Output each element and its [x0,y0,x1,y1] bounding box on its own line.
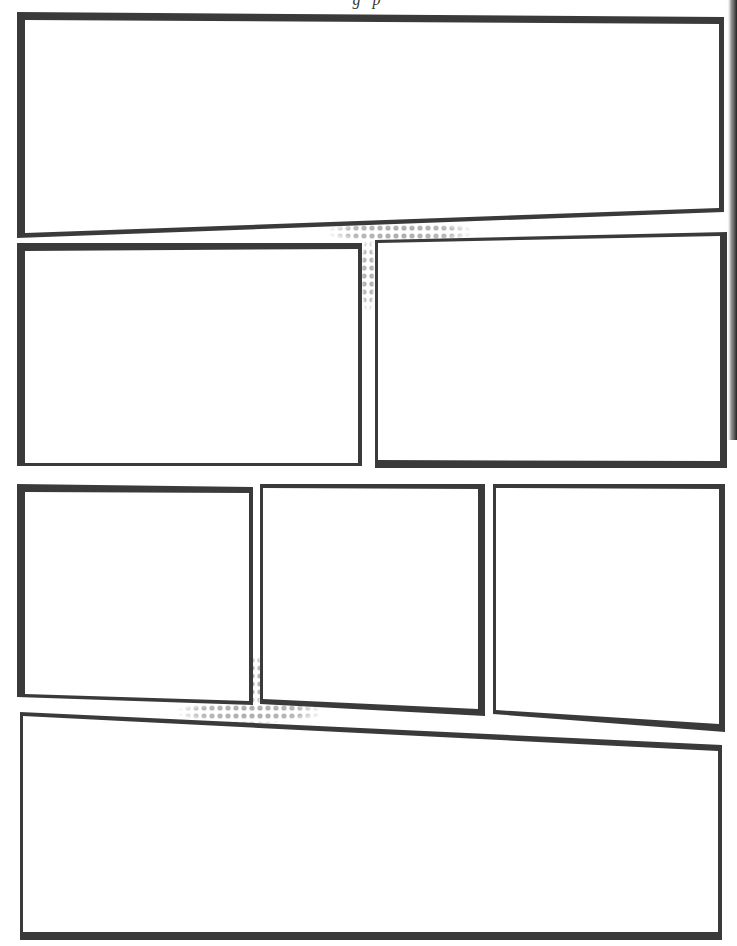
panel-3[interactable] [375,232,727,468]
panel-4[interactable] [17,484,253,705]
panel-content-area[interactable] [263,488,478,709]
panel-layout [0,0,737,946]
comic-page: g p [0,0,737,946]
panel-content-area[interactable] [25,249,358,463]
page-edge-shadow [727,0,737,440]
panel-1[interactable] [17,12,724,238]
panel-content-area[interactable] [378,236,720,461]
panel-2[interactable] [17,243,362,466]
panel-content-area[interactable] [496,488,719,724]
panel-5[interactable] [260,484,485,716]
panel-7[interactable] [20,712,722,940]
panel-6[interactable] [493,484,725,732]
panel-content-area[interactable] [23,716,718,932]
panel-content-area[interactable] [25,20,719,233]
page-title-fragment: g p [0,0,737,9]
panel-content-area[interactable] [25,492,249,701]
